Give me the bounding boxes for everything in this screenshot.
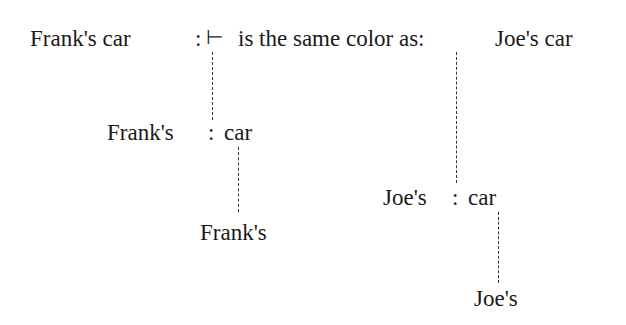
top-subject: Frank's car [30,27,131,50]
top-object: Joe's car [495,27,573,50]
frank-leaf: Frank's [200,221,267,244]
connector-frank-head [238,147,239,212]
joe-leaf: Joe's [474,287,518,310]
turnstile-symbol: ⊢ [206,27,223,47]
joe-modifier: Joe's [383,186,427,209]
connector-object [456,52,457,183]
joe-head: car [468,186,496,209]
connector-joe-head [498,212,499,283]
top-predicate: is the same color as: [238,27,425,50]
frank-modifier: Frank's [107,121,174,144]
top-colon: : [195,27,201,50]
frank-head: car [224,121,252,144]
frank-colon: : [208,121,214,144]
connector-subject [212,52,213,120]
joe-colon: : [452,186,458,209]
